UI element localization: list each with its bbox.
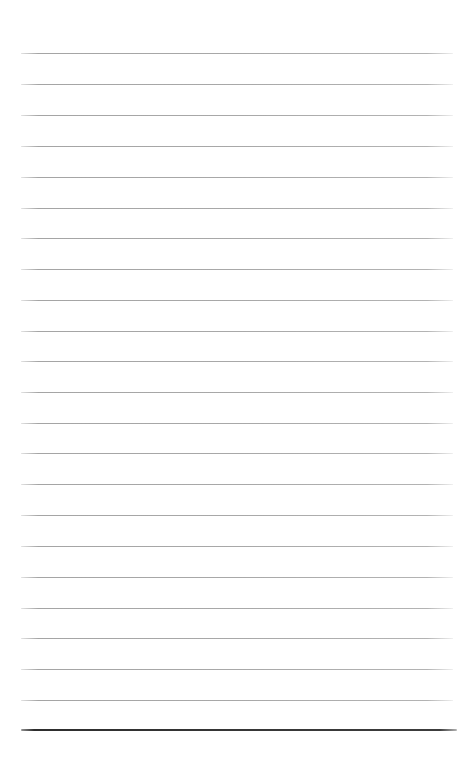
ruled-line: [21, 546, 453, 547]
ruled-line: [21, 331, 453, 332]
ruled-line: [21, 53, 453, 54]
ruled-line: [21, 392, 453, 393]
ruled-line: [21, 361, 453, 362]
ruled-line: [21, 115, 453, 116]
ruled-line: [21, 208, 453, 209]
lined-paper-page: [0, 0, 476, 762]
ruled-line: [21, 423, 453, 424]
ruled-line: [21, 146, 453, 147]
ruled-line: [21, 577, 453, 578]
ruled-line: [21, 669, 453, 670]
ruled-line: [21, 515, 453, 516]
ruled-line: [21, 608, 453, 609]
ruled-line: [21, 238, 453, 239]
ruled-line: [21, 453, 453, 454]
footer-rule-line: [21, 729, 457, 731]
ruled-line: [21, 269, 453, 270]
ruled-line: [21, 300, 453, 301]
ruled-line: [21, 84, 453, 85]
ruled-line: [21, 177, 453, 178]
ruled-line: [21, 484, 453, 485]
ruled-line: [21, 638, 453, 639]
ruled-line: [21, 700, 453, 701]
